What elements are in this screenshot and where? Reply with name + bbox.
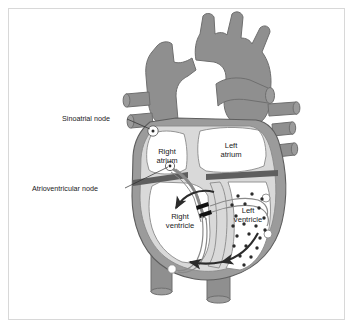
right-atrium-label: Right atrium xyxy=(156,147,177,165)
right-atrium-label-line2: atrium xyxy=(156,156,177,165)
left-atrium-label-line2: atrium xyxy=(220,150,241,159)
superior-vena-cava xyxy=(146,42,196,124)
pulmonary-artery-opening xyxy=(266,88,275,104)
atrioventricular-node-dot xyxy=(169,165,172,168)
left-ventricle-label-line2: ventricle xyxy=(234,215,262,224)
pulmonary-vein-stub-mid-opening xyxy=(289,122,295,134)
right-purkinje-terminal xyxy=(168,265,176,273)
left-atrium-label-line1: Left xyxy=(225,141,239,150)
vein-stub-left-upper-opening xyxy=(123,94,130,107)
descending-vessel-right-opening xyxy=(207,296,230,303)
pulmonary-vein-stub-lower-opening xyxy=(291,143,297,155)
pulmonary-vein-stub-upper-opening xyxy=(293,102,300,114)
descending-vessel-left-opening xyxy=(151,288,172,295)
aortic-arch xyxy=(195,12,271,126)
heart-conduction-diagram: Sinoatrial node Atrioventricular node Ri… xyxy=(0,0,354,329)
right-atrium-label-line1: Right xyxy=(158,147,177,156)
right-ventricle-label-line2: ventricle xyxy=(166,221,194,230)
figure-root: Sinoatrial node Atrioventricular node Ri… xyxy=(0,0,354,329)
left-ventricle-label-line1: Left xyxy=(242,206,256,215)
right-ventricle-label-line1: Right xyxy=(171,212,190,221)
atrioventricular-node-label: Atrioventricular node xyxy=(32,184,98,193)
sinoatrial-node-dot xyxy=(152,130,155,133)
sinoatrial-node-label: Sinoatrial node xyxy=(62,114,110,123)
